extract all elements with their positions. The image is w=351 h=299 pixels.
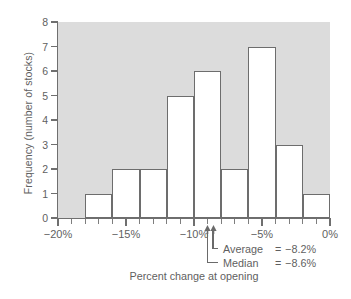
x-tick-label: −20% <box>28 228 88 240</box>
y-tick-label: 4 <box>0 114 48 126</box>
x-tick-mark-minor <box>316 219 317 224</box>
annotation-equals-median: = <box>275 257 285 269</box>
y-tick-mark <box>51 119 57 120</box>
annotation-leader-horizontal-average <box>212 248 218 249</box>
y-tick-mark <box>51 70 57 71</box>
x-tick-mark-major <box>193 219 194 226</box>
histogram-bar <box>85 194 112 219</box>
annotation-name-average: Average <box>223 243 275 255</box>
x-tick-label: −15% <box>96 228 156 240</box>
x-tick-mark-major <box>57 219 58 226</box>
annotation-leader-horizontal-median <box>207 262 218 263</box>
y-tick-mark <box>51 168 57 169</box>
annotation-equals-average: = <box>275 243 285 255</box>
y-tick-label: 1 <box>0 188 48 200</box>
histogram-bar <box>112 169 139 218</box>
x-tick-label: −5% <box>232 228 292 240</box>
x-tick-label: 0% <box>300 228 351 240</box>
x-tick-mark-minor <box>302 219 303 224</box>
x-tick-mark-minor <box>166 219 167 224</box>
x-tick-mark-minor <box>180 219 181 224</box>
y-tick-label: 8 <box>0 16 48 28</box>
x-tick-mark-minor <box>234 219 235 224</box>
x-tick-mark-minor <box>289 219 290 224</box>
y-axis-spine <box>57 21 58 219</box>
y-tick-mark <box>51 95 57 96</box>
histogram-bar <box>248 47 275 219</box>
y-tick-label: 6 <box>0 65 48 77</box>
histogram-bar <box>140 169 167 218</box>
x-axis-title: Percent change at opening <box>58 270 330 282</box>
annotation-value-median: −8.6% <box>285 257 316 269</box>
y-tick-mark <box>51 193 57 194</box>
annotation-value-average: −8.2% <box>285 243 316 255</box>
x-tick-mark-minor <box>85 219 86 224</box>
histogram-figure: Frequency (number of stocks) 012345678 −… <box>0 0 351 299</box>
x-tick-mark-minor <box>248 219 249 224</box>
y-tick-label: 7 <box>0 41 48 53</box>
y-tick-mark <box>51 217 57 218</box>
y-tick-mark <box>51 46 57 47</box>
y-tick-mark <box>51 144 57 145</box>
x-tick-mark-minor <box>275 219 276 224</box>
x-tick-mark-minor <box>98 219 99 224</box>
annotation-label-average: Average= −8.2% <box>223 243 316 255</box>
histogram-bar <box>194 71 221 218</box>
y-tick-label: 5 <box>0 90 48 102</box>
x-tick-mark-major <box>261 219 262 226</box>
x-tick-mark-minor <box>112 219 113 224</box>
annotation-leader-vertical-average <box>212 228 213 249</box>
histogram-bar <box>167 96 194 219</box>
x-tick-mark-minor <box>71 219 72 224</box>
histogram-bar <box>276 145 303 219</box>
x-tick-mark-major <box>125 219 126 226</box>
y-tick-mark <box>51 21 57 22</box>
x-tick-mark-minor <box>139 219 140 224</box>
y-tick-label: 3 <box>0 139 48 151</box>
histogram-bar <box>303 194 330 219</box>
x-tick-mark-minor <box>221 219 222 224</box>
y-tick-label: 2 <box>0 163 48 175</box>
x-tick-mark-minor <box>153 219 154 224</box>
x-tick-mark-major <box>329 219 330 226</box>
annotation-leader-vertical-median <box>207 228 208 263</box>
annotation-label-median: Median= −8.6% <box>223 257 316 269</box>
annotation-name-median: Median <box>223 257 275 269</box>
y-tick-label: 0 <box>0 212 48 224</box>
histogram-bar <box>221 169 248 218</box>
